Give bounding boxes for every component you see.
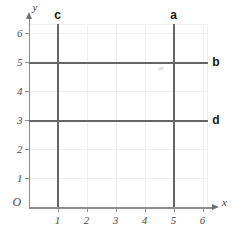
plot-line-a	[173, 24, 175, 207]
y-axis-tick	[25, 33, 29, 34]
scan-artifact	[157, 66, 164, 71]
gridline-vertical	[87, 24, 88, 207]
gridline-horizontal	[29, 149, 207, 150]
x-axis-tick-label: 5	[171, 215, 177, 226]
x-axis-tick-label: 6	[200, 215, 206, 226]
gridline-horizontal	[29, 178, 207, 179]
x-axis	[29, 207, 213, 209]
gridline-vertical	[203, 24, 204, 207]
x-axis-tick-label: 1	[55, 215, 61, 226]
x-axis-tick	[87, 208, 88, 212]
x-axis-tick	[116, 208, 117, 212]
x-axis-tick	[174, 208, 175, 212]
gridline-vertical	[207, 24, 208, 207]
plot-line-label-d: d	[212, 114, 219, 126]
y-axis-tick-label: 1	[9, 173, 23, 184]
y-axis-tick-label: 3	[9, 115, 23, 126]
x-axis-tick	[58, 208, 59, 212]
y-axis	[29, 18, 31, 207]
x-axis-tick-label: 3	[113, 215, 119, 226]
y-axis-tick-label: 5	[9, 57, 23, 68]
x-axis-tick	[203, 208, 204, 212]
y-axis-tick-label: 4	[9, 86, 23, 97]
x-axis-tick	[145, 208, 146, 212]
x-axis-tick-label: 2	[84, 215, 90, 226]
y-axis-tick	[25, 178, 29, 179]
gridline-vertical	[145, 24, 146, 207]
plot-line-c	[57, 24, 59, 207]
gridline-horizontal	[29, 91, 207, 92]
plot-line-label-b: b	[212, 56, 219, 68]
y-axis-tick-label: 6	[9, 28, 23, 39]
y-axis-title: y	[33, 2, 38, 13]
plot-line-label-c: c	[54, 9, 61, 21]
y-axis-tick	[25, 91, 29, 92]
x-axis-tick-label: 4	[142, 215, 148, 226]
plot-line-b	[29, 62, 209, 64]
plot-line-d	[29, 120, 209, 122]
gridline-vertical	[116, 24, 117, 207]
y-axis-arrow-icon	[26, 12, 32, 19]
x-axis-arrow-icon	[212, 204, 219, 210]
y-axis-tick-label: 2	[9, 144, 23, 155]
x-axis-title: x	[222, 197, 227, 208]
origin-label: O	[13, 196, 22, 208]
y-axis-tick	[25, 149, 29, 150]
coordinate-plane-figure: 123456123456Oxycabd	[0, 0, 232, 235]
plot-line-label-a: a	[170, 9, 177, 21]
gridline-horizontal	[29, 33, 207, 34]
gridline-horizontal	[29, 24, 207, 25]
